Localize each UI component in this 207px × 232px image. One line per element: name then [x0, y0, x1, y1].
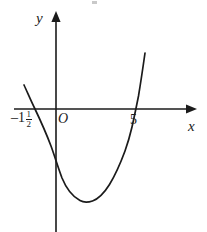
- mixed-number-whole-part: –1: [11, 111, 25, 125]
- mixed-number-fraction: 1 2: [26, 110, 33, 130]
- x-intercept-label-positive: 5: [130, 113, 137, 127]
- graph-figure: y x O –1 1 2 5: [0, 0, 207, 232]
- parabola-curve: [24, 53, 145, 202]
- y-axis-label: y: [36, 11, 43, 26]
- x-intercept-label-negative: –1 1 2: [11, 111, 32, 131]
- x-axis-label: x: [188, 119, 195, 134]
- fraction-numerator: 1: [26, 110, 33, 119]
- y-axis-arrowhead: [51, 11, 60, 22]
- x-axis-arrowhead: [186, 104, 197, 113]
- origin-label: O: [58, 112, 68, 126]
- x-axis: [14, 104, 197, 113]
- fraction-denominator: 2: [26, 120, 33, 129]
